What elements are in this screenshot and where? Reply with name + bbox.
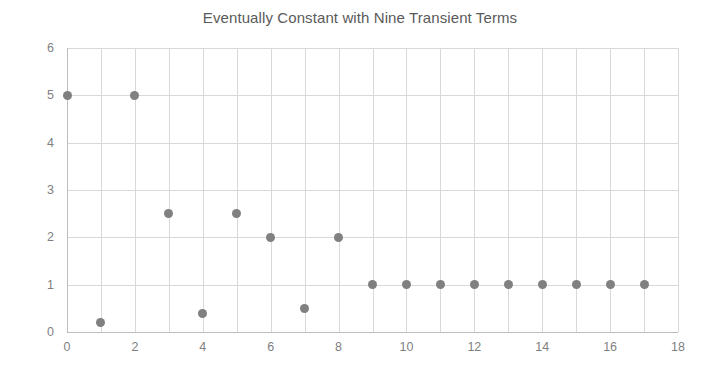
data-point bbox=[63, 91, 72, 100]
plot-area bbox=[67, 48, 678, 332]
x-tick-label: 12 bbox=[467, 340, 481, 354]
data-point bbox=[368, 280, 377, 289]
gridline-vertical bbox=[169, 48, 170, 332]
data-point bbox=[130, 91, 139, 100]
data-point bbox=[606, 280, 615, 289]
gridline-vertical bbox=[339, 48, 340, 332]
data-point bbox=[266, 233, 275, 242]
y-tick-label: 5 bbox=[47, 88, 54, 102]
x-tick-label: 8 bbox=[335, 340, 342, 354]
gridline-vertical bbox=[542, 48, 543, 332]
x-axis-line bbox=[67, 332, 678, 333]
x-tick-label: 6 bbox=[267, 340, 274, 354]
gridline-vertical bbox=[305, 48, 306, 332]
data-point bbox=[334, 233, 343, 242]
data-point bbox=[436, 280, 445, 289]
gridline-vertical bbox=[373, 48, 374, 332]
y-tick-label: 2 bbox=[47, 230, 54, 244]
x-tick-label: 18 bbox=[671, 340, 685, 354]
y-tick-label: 3 bbox=[47, 183, 54, 197]
gridline-vertical bbox=[203, 48, 204, 332]
gridline-vertical bbox=[576, 48, 577, 332]
data-point bbox=[232, 209, 241, 218]
gridline-vertical bbox=[406, 48, 407, 332]
x-tick-label: 0 bbox=[64, 340, 71, 354]
data-point bbox=[96, 318, 105, 327]
data-point bbox=[538, 280, 547, 289]
gridline-vertical bbox=[101, 48, 102, 332]
gridline-vertical bbox=[271, 48, 272, 332]
y-axis-tick-labels: 0123456 bbox=[0, 48, 54, 332]
x-axis-tick-labels: 024681012141618 bbox=[67, 340, 678, 360]
y-tick-label: 6 bbox=[47, 41, 54, 55]
chart-title: Eventually Constant with Nine Transient … bbox=[0, 9, 720, 26]
y-tick-label: 1 bbox=[47, 278, 54, 292]
y-tick-label: 0 bbox=[47, 325, 54, 339]
data-point bbox=[300, 304, 309, 313]
data-point bbox=[572, 280, 581, 289]
gridline-vertical bbox=[508, 48, 509, 332]
x-tick-label: 2 bbox=[131, 340, 138, 354]
x-tick-label: 16 bbox=[603, 340, 617, 354]
data-point bbox=[470, 280, 479, 289]
data-point bbox=[504, 280, 513, 289]
data-point bbox=[198, 309, 207, 318]
gridline-vertical bbox=[644, 48, 645, 332]
gridline-vertical bbox=[440, 48, 441, 332]
scatter-chart-figure: Eventually Constant with Nine Transient … bbox=[0, 0, 720, 372]
gridline-vertical bbox=[237, 48, 238, 332]
data-point bbox=[164, 209, 173, 218]
gridline-vertical bbox=[678, 48, 679, 332]
gridline-vertical bbox=[474, 48, 475, 332]
data-point bbox=[402, 280, 411, 289]
y-tick-label: 4 bbox=[47, 136, 54, 150]
gridline-vertical bbox=[610, 48, 611, 332]
x-tick-label: 14 bbox=[535, 340, 549, 354]
data-point bbox=[640, 280, 649, 289]
x-tick-label: 10 bbox=[399, 340, 413, 354]
x-tick-label: 4 bbox=[199, 340, 206, 354]
